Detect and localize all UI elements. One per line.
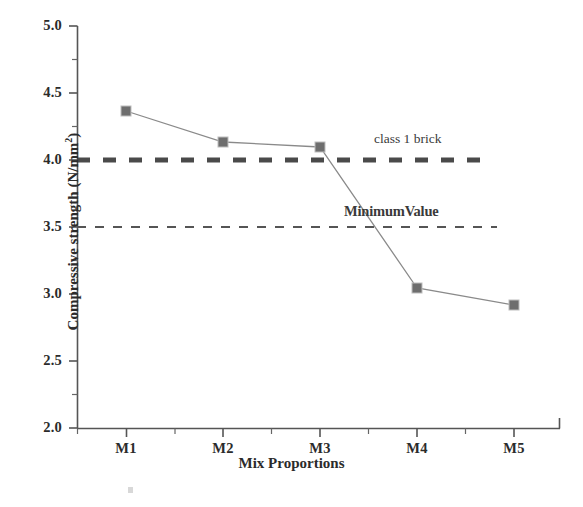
data-point-m1 <box>121 106 131 116</box>
data-point-m4 <box>412 283 422 293</box>
y-tick-label-2-0: 2.0 <box>18 419 62 436</box>
scan-artifact-speck <box>128 487 133 493</box>
data-point-m3 <box>315 142 325 152</box>
data-point-m2 <box>218 137 228 147</box>
y-axis-title-superscript: 2 <box>63 138 74 143</box>
y-tick-label-5-0: 5.0 <box>18 17 62 34</box>
x-minor-ticks <box>78 429 466 435</box>
y-tick-label-4-0: 4.0 <box>18 151 62 168</box>
chart-figure: 5.0 4.5 4.0 3.5 3.0 2.5 2.0 M1 M2 M3 M4 … <box>0 0 583 507</box>
y-tick-label-3-0: 3.0 <box>18 285 62 302</box>
annotation-minimum-value: MinimumValue <box>344 203 439 220</box>
x-axis-title: Mix Proportions <box>0 455 583 472</box>
data-series-line <box>126 111 514 305</box>
chart-canvas <box>0 0 583 507</box>
x-major-ticks <box>127 429 515 438</box>
data-point-m5 <box>509 300 519 310</box>
y-axis-title: Compressive strength (N/mm2) <box>63 82 82 382</box>
y-axis-title-tail: ) <box>65 133 81 138</box>
y-axis-title-text: Compressive strength (N/mm <box>65 143 81 331</box>
data-point-markers <box>121 106 519 310</box>
annotation-class-1-brick: class 1 brick <box>374 131 441 147</box>
y-tick-label-2-5: 2.5 <box>18 352 62 369</box>
y-tick-label-4-5: 4.5 <box>18 84 62 101</box>
y-tick-label-3-5: 3.5 <box>18 218 62 235</box>
